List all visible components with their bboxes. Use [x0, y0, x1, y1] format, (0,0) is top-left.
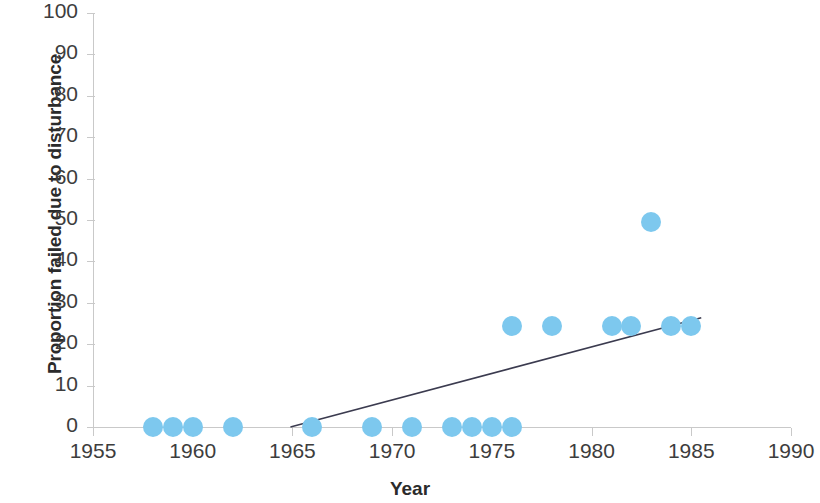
x-tick-label: 1985: [651, 440, 731, 461]
data-point: [362, 417, 382, 437]
x-tick-label: 1990: [751, 440, 820, 461]
data-point: [621, 316, 641, 336]
data-point: [661, 316, 681, 336]
y-tick-mark: [87, 386, 95, 387]
data-point: [462, 417, 482, 437]
scatter-chart: Proportion failed due to disturbance Yea…: [0, 0, 820, 503]
x-tick-label: 1955: [53, 440, 133, 461]
y-tick-mark: [87, 179, 95, 180]
y-tick-label: 90: [30, 41, 78, 62]
x-tick-label: 1970: [352, 440, 432, 461]
y-tick-label: 60: [30, 166, 78, 187]
data-point: [542, 316, 562, 336]
y-tick-mark: [87, 96, 95, 97]
data-point: [502, 316, 522, 336]
data-point: [223, 417, 243, 437]
y-tick-label: 0: [30, 414, 78, 435]
y-tick-mark: [87, 303, 95, 304]
data-point: [681, 316, 701, 336]
y-tick-label: 100: [30, 0, 78, 21]
x-tick-label: 1965: [252, 440, 332, 461]
y-tick-label: 30: [30, 290, 78, 311]
y-tick-label: 50: [30, 207, 78, 228]
x-tick-label: 1980: [552, 440, 632, 461]
x-tick-mark: [392, 428, 393, 436]
data-point: [302, 417, 322, 437]
data-point: [602, 316, 622, 336]
data-point: [482, 417, 502, 437]
x-tick-label: 1975: [452, 440, 532, 461]
data-point: [641, 212, 661, 232]
trendline: [290, 318, 701, 427]
y-tick-label: 80: [30, 83, 78, 104]
x-tick-mark: [592, 428, 593, 436]
x-tick-label: 1960: [153, 440, 233, 461]
x-tick-mark: [292, 428, 293, 436]
y-tick-label: 20: [30, 331, 78, 352]
data-point: [183, 417, 203, 437]
y-tick-label: 70: [30, 124, 78, 145]
x-tick-mark: [691, 428, 692, 436]
x-axis-title: Year: [0, 478, 820, 500]
y-tick-mark: [87, 220, 95, 221]
y-tick-label: 40: [30, 248, 78, 269]
y-tick-mark: [87, 13, 95, 14]
data-point: [442, 417, 462, 437]
y-tick-mark: [87, 261, 95, 262]
y-tick-label: 10: [30, 373, 78, 394]
x-tick-mark: [93, 428, 94, 436]
data-point: [402, 417, 422, 437]
x-tick-mark: [791, 428, 792, 436]
data-point: [502, 417, 522, 437]
y-tick-mark: [87, 344, 95, 345]
y-tick-mark: [87, 54, 95, 55]
data-point: [163, 417, 183, 437]
data-point: [143, 417, 163, 437]
y-tick-mark: [87, 137, 95, 138]
